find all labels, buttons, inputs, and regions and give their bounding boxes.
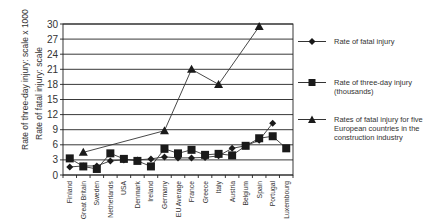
y-tick-label: 12 xyxy=(47,109,59,120)
x-tick-label: Belgium xyxy=(242,181,250,206)
x-tick-label: Germany xyxy=(161,180,169,209)
diamond-marker-icon xyxy=(298,37,326,46)
x-tick-label: Ireland xyxy=(147,181,154,202)
series-square xyxy=(66,132,290,173)
y-tick-label: 24 xyxy=(47,49,59,60)
legend: Rate of fatal injury Rate of three-day i… xyxy=(298,0,444,223)
x-tick-label: Portugal xyxy=(269,181,277,207)
gridlines: 036912151821242730 xyxy=(47,19,293,181)
y-tick-label: 30 xyxy=(47,19,59,30)
x-tick-label: USA xyxy=(120,181,127,195)
x-tick-label: Sweden xyxy=(93,181,100,206)
x-axis: FinlandGreat BritainSwedenNetherlandsUSA… xyxy=(63,175,293,219)
y-tick-label: 9 xyxy=(52,124,58,135)
y-tick-label: 3 xyxy=(52,154,58,165)
y-tick-label: 27 xyxy=(47,34,59,45)
y-axis-label-line1: Rate of three-day injury: scale x 1000 xyxy=(20,9,30,150)
legend-item-three-day: Rate of three-day injury (thousands) xyxy=(298,78,444,100)
legend-item-construction: Rates of fatal injury for five European … xyxy=(298,115,444,145)
legend-item-fatal: Rate of fatal injury xyxy=(298,37,444,49)
x-tick-label: Finland xyxy=(66,181,73,204)
x-tick-label: Netherlands xyxy=(107,180,114,217)
legend-label: Rates of fatal injury for five European … xyxy=(334,115,444,142)
y-tick-label: 21 xyxy=(47,64,59,75)
x-tick-label: Spain xyxy=(256,181,264,199)
legend-label: Rate of fatal injury xyxy=(334,37,444,46)
y-tick-label: 15 xyxy=(47,94,59,105)
x-tick-label: Greece xyxy=(202,181,209,204)
x-tick-label: Austria xyxy=(229,181,236,202)
x-tick-label: Denmark xyxy=(134,180,141,208)
triangle-marker-icon xyxy=(298,115,326,124)
y-tick-label: 0 xyxy=(52,170,58,181)
legend-label: Rate of three-day injury (thousands) xyxy=(334,78,444,96)
x-tick-label: EU Average xyxy=(175,181,183,217)
y-axis-label-line2: Rate of fatal injury: scale xyxy=(34,47,44,140)
x-tick-label: Luxembourg xyxy=(283,181,291,219)
series-triangle xyxy=(79,22,264,156)
y-tick-label: 6 xyxy=(52,139,58,150)
x-tick-label: Italy xyxy=(215,180,223,193)
y-tick-label: 18 xyxy=(47,79,59,90)
x-tick-label: France xyxy=(188,181,195,202)
x-tick-label: Great Britain xyxy=(80,181,87,219)
square-marker-icon xyxy=(298,78,326,87)
